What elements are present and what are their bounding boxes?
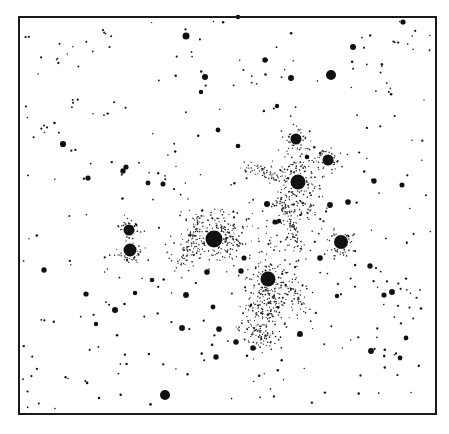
nebula-speck [212, 255, 213, 256]
faint-star [275, 301, 277, 303]
nebula-speck [254, 320, 255, 321]
nebula-speck [208, 268, 210, 270]
faint-star [400, 322, 402, 324]
nebula-speck [248, 165, 250, 167]
nebula-speck [335, 168, 336, 169]
nebula-speck [243, 228, 244, 229]
nebula-speck [291, 191, 293, 193]
medium-star [317, 255, 323, 261]
nebula-speck [242, 226, 243, 227]
nebula-speck [289, 227, 290, 228]
faint-star [393, 354, 395, 356]
nebula-speck [223, 217, 224, 218]
nebula-speck [250, 171, 251, 172]
nebula-speck [260, 293, 262, 295]
nebula-speck [285, 200, 287, 202]
faint-star [70, 264, 71, 265]
nebula-speck [260, 339, 262, 341]
faint-star [203, 359, 205, 361]
nebula-speck [284, 169, 286, 171]
nebula-speck [337, 249, 338, 250]
nebula-speck [262, 210, 264, 212]
nebula-speck [190, 232, 192, 234]
nebula-speck [264, 167, 266, 169]
nebula-speck [116, 249, 117, 250]
nebula-speck [199, 235, 200, 236]
faint-star [396, 374, 398, 376]
nebula-speck [294, 274, 296, 276]
medium-star [400, 19, 405, 24]
nebula-speck [195, 231, 197, 233]
nebula-speck [295, 293, 296, 294]
nebula-speck [249, 258, 251, 260]
nebula-speck [272, 203, 274, 205]
bright-star [160, 390, 170, 400]
nebula-speck [284, 323, 286, 325]
bright-star [291, 175, 306, 190]
nebula-speck [276, 174, 278, 176]
nebula-speck [288, 206, 290, 208]
nebula-speck [239, 242, 241, 244]
faint-star [152, 133, 153, 134]
nebula-speck [200, 253, 202, 255]
faint-star [251, 82, 253, 84]
nebula-speck [224, 226, 226, 228]
faint-star [384, 366, 386, 368]
nebula-speck [264, 373, 266, 375]
faint-star [113, 101, 115, 103]
nebula-speck [220, 252, 221, 253]
nebula-speck [271, 206, 273, 208]
nebula-speck [248, 167, 249, 168]
nebula-speck [247, 320, 249, 322]
nebula-speck [214, 250, 215, 251]
nebula-speck [285, 204, 286, 205]
nebula-speck [286, 326, 288, 328]
nebula-speck [289, 196, 291, 198]
nebula-speck [227, 229, 228, 230]
nebula-speck [276, 311, 277, 312]
faint-star [120, 363, 122, 365]
medium-star [146, 181, 151, 186]
nebula-speck [300, 128, 301, 129]
faint-star [408, 307, 410, 309]
faint-star [224, 241, 226, 243]
faint-star [363, 170, 365, 172]
nebula-speck [277, 197, 279, 199]
nebula-speck [335, 233, 336, 234]
nebula-speck [207, 231, 209, 233]
nebula-speck [140, 251, 142, 253]
faint-star [117, 373, 119, 375]
nebula-speck [345, 251, 346, 252]
nebula-speck [179, 259, 180, 260]
nebula-speck [297, 246, 298, 247]
faint-star [410, 292, 412, 294]
nebula-speck [287, 153, 289, 155]
nebula-speck [269, 266, 270, 267]
nebula-speck [312, 184, 313, 185]
nebula-speck [307, 148, 309, 150]
nebula-speck [348, 236, 350, 238]
nebula-speck [323, 166, 324, 167]
nebula-speck [270, 303, 272, 305]
nebula-speck [291, 156, 293, 158]
nebula-speck [334, 164, 335, 165]
faint-star [253, 381, 254, 382]
nebula-speck [286, 180, 287, 181]
faint-star [85, 41, 87, 43]
faint-star [380, 72, 382, 74]
faint-star [413, 233, 415, 235]
nebula-speck [275, 303, 277, 305]
nebula-speck [306, 180, 307, 181]
nebula-speck [299, 192, 300, 193]
nebula-speck [333, 157, 334, 158]
nebula-speck [230, 248, 232, 250]
faint-star [310, 250, 312, 252]
nebula-speck [280, 317, 281, 318]
faint-star [123, 303, 125, 305]
nebula-speck [342, 252, 344, 254]
faint-star [376, 337, 378, 339]
nebula-speck [289, 245, 290, 246]
nebula-speck [289, 223, 291, 225]
nebula-speck [138, 245, 140, 247]
nebula-speck [193, 243, 194, 244]
